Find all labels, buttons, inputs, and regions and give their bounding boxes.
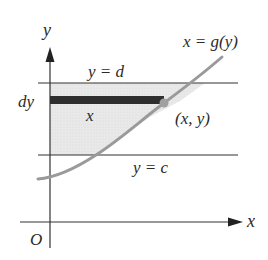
origin-label: O (30, 230, 42, 249)
point-label: (x, y) (175, 109, 210, 128)
x-axis-arrow-icon (228, 218, 243, 227)
strip-length-label: x (85, 106, 94, 125)
lower-line-label: y = c (131, 158, 169, 177)
y-axis-arrow-icon (46, 47, 55, 62)
upper-line-label: y = d (86, 62, 125, 81)
strip-thickness-label: dy (18, 92, 35, 111)
x-axis-label: x (246, 211, 255, 231)
y-axis-label: y (41, 20, 51, 40)
point-x-y (160, 99, 169, 108)
strip-dy (50, 96, 164, 104)
curve-label: x = g(y) (182, 32, 238, 51)
region-diagram: y x O y = d y = c x = g(y) dy x (x, y) (0, 0, 268, 260)
